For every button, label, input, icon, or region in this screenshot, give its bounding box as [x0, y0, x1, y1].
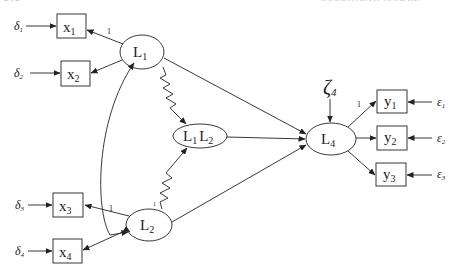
- loading-label-L2-x3: 1: [109, 204, 113, 213]
- covariance-arrowhead-L2: [110, 232, 128, 235]
- tick-mark-L2-zigzag: 1: [153, 201, 156, 207]
- sem-diagram: x1 x2 x3 x4 y1 y2 y3 L1 L2 L1L2 L4 δ1 δ2…: [0, 0, 456, 277]
- label-x3: x3: [59, 198, 72, 216]
- label-L4: L4: [321, 131, 335, 149]
- label-x1: x1: [63, 19, 76, 37]
- label-delta2: δ2: [14, 66, 24, 81]
- diagram-page: 212 COLLINEAR MODEL: [0, 0, 456, 277]
- arrow-L1-L4: [164, 58, 306, 134]
- label-y1: y1: [384, 93, 397, 111]
- arrow-L2-L4: [172, 145, 306, 222]
- zigzag-L1-L1L2: [160, 67, 186, 124]
- label-L1L2: L1L2: [183, 128, 213, 146]
- zigzag-L2-L1L2: [160, 148, 187, 209]
- covariance-curve-L1-L2: [101, 63, 134, 235]
- loading-label-L4-y1: 1: [357, 100, 361, 109]
- label-x2: x2: [67, 66, 80, 84]
- label-delta3: δ3: [15, 198, 25, 213]
- label-zeta4: ζ4: [323, 76, 337, 99]
- label-y2: y2: [384, 129, 397, 147]
- label-eps2: ε2: [437, 131, 446, 146]
- label-delta1: δ1: [14, 19, 23, 34]
- loading-label-L1-x1: 1: [107, 27, 111, 36]
- label-eps3: ε3: [437, 167, 446, 182]
- arrow-L4-y3: [348, 151, 375, 175]
- label-eps1: ε1: [437, 95, 445, 110]
- arrow-L2-x3: [85, 205, 129, 216]
- label-L1: L1: [133, 44, 147, 62]
- arrow-L1L2-L4: [227, 137, 305, 139]
- arrow-L1-x2: [91, 60, 122, 73]
- label-delta4: δ4: [15, 244, 25, 259]
- label-L2: L2: [140, 217, 154, 235]
- arrow-L1-x1: [87, 30, 123, 44]
- label-y3: y3: [383, 166, 396, 184]
- arrow-L4-y1: [348, 101, 376, 127]
- label-x4: x4: [59, 244, 72, 262]
